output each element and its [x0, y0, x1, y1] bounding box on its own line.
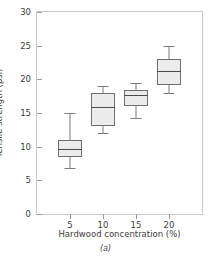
boxplot-box-15: [124, 12, 148, 214]
whisker-lower: [70, 157, 71, 168]
whisker-upper: [70, 113, 71, 140]
boxplot-box-20: [157, 12, 181, 214]
whisker-cap-lower: [131, 118, 142, 119]
whisker-lower: [103, 126, 104, 133]
y-axis-tick-label: 0: [26, 210, 37, 219]
whisker-lower: [169, 85, 170, 93]
x-axis-title: Hardwood concentration (%): [36, 229, 203, 239]
median-line: [58, 149, 82, 150]
boxplot-figure: Tensile strength (psi) 05101520253051015…: [0, 0, 211, 261]
y-axis-tick: [37, 214, 42, 215]
whisker-cap-lower: [65, 168, 76, 169]
whisker-cap-upper: [98, 86, 109, 87]
y-axis-tick: [37, 113, 42, 114]
y-axis-tick: [37, 12, 42, 13]
whisker-cap-lower: [164, 93, 175, 94]
y-axis-tick: [37, 79, 42, 80]
whisker-cap-upper: [65, 113, 76, 114]
plot-frame: 0510152025305101520: [36, 11, 203, 215]
x-axis-tick: [103, 214, 104, 219]
whisker-lower: [136, 106, 137, 118]
whisker-cap-upper: [131, 83, 142, 84]
x-axis-tick: [169, 214, 170, 219]
box-iqr: [91, 93, 115, 126]
y-axis-tick-label: 25: [20, 41, 37, 50]
y-axis-tick-label: 10: [20, 142, 37, 151]
median-line: [157, 71, 181, 72]
boxplot-box-10: [91, 12, 115, 214]
y-axis-tick: [37, 180, 42, 181]
x-axis-tick: [136, 214, 137, 219]
y-axis-tick-label: 20: [20, 75, 37, 84]
median-line: [124, 95, 148, 96]
boxplot-box-5: [58, 12, 82, 214]
whisker-cap-upper: [164, 46, 175, 47]
whisker-upper: [136, 83, 137, 90]
whisker-upper: [169, 46, 170, 59]
figure-caption: (a): [0, 244, 211, 253]
whisker-cap-lower: [98, 133, 109, 134]
box-iqr: [124, 90, 148, 106]
plot-area: 0510152025305101520: [37, 12, 202, 214]
y-axis-tick: [37, 46, 42, 47]
x-axis-tick: [70, 214, 71, 219]
y-axis-tick: [37, 147, 42, 148]
whisker-upper: [103, 86, 104, 93]
y-axis-title: Tensile strength (psi): [0, 69, 4, 158]
y-axis-tick-label: 30: [20, 8, 37, 17]
median-line: [91, 107, 115, 108]
y-axis-tick-label: 15: [20, 109, 37, 118]
y-axis-tick-label: 5: [26, 176, 37, 185]
